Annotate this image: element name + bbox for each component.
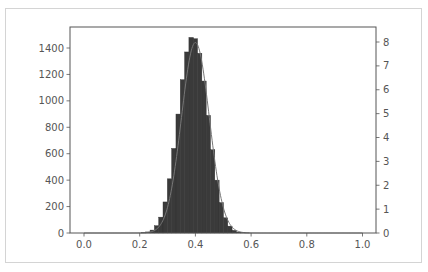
histogram-bar [193, 39, 197, 233]
x-tick-label: 0.6 [243, 239, 259, 250]
histogram-bar [215, 180, 219, 233]
y-right-tick-label: 1 [383, 204, 389, 215]
histogram-bar [163, 202, 167, 233]
x-tick-label: 1.0 [355, 239, 371, 250]
y-left-tick-label: 400 [45, 175, 64, 186]
y-left-tick-label: 0 [58, 228, 64, 239]
y-right-tick-label: 5 [383, 108, 389, 119]
histogram-bar [180, 80, 184, 233]
y-right-tick-label: 7 [383, 60, 389, 71]
y-left-tick-label: 1000 [39, 95, 64, 106]
y-right-tick-label: 4 [383, 132, 389, 143]
y-left-tick-label: 200 [45, 201, 64, 212]
histogram-bar [228, 226, 232, 233]
x-axis: 0.00.20.40.60.81.0 [76, 233, 370, 250]
x-tick-label: 0.8 [299, 239, 315, 250]
x-tick-label: 0.2 [132, 239, 148, 250]
x-tick-label: 0.4 [187, 239, 203, 250]
y-axis-right: 012345678 [376, 37, 389, 239]
histogram-bar [189, 37, 193, 233]
y-axis-left: 0200400600800100012001400 [39, 43, 70, 239]
y-left-tick-label: 600 [45, 148, 64, 159]
y-right-tick-label: 6 [383, 84, 389, 95]
x-tick-label: 0.0 [76, 239, 92, 250]
y-left-tick-label: 1200 [39, 69, 64, 80]
histogram-bar [206, 115, 210, 233]
histogram-bar [210, 150, 214, 233]
y-right-tick-label: 0 [383, 228, 389, 239]
histogram-bar [172, 148, 176, 233]
y-right-tick-label: 8 [383, 37, 389, 48]
histogram-chart: 0.00.20.40.60.81.0 020040060080010001200… [0, 0, 428, 272]
y-right-tick-label: 2 [383, 180, 389, 191]
histogram-bar [198, 53, 202, 233]
y-left-tick-label: 800 [45, 122, 64, 133]
plot-area-border [70, 27, 376, 233]
y-right-tick-label: 3 [383, 156, 389, 167]
histogram-bar [202, 81, 206, 233]
histogram-bars [141, 37, 249, 233]
y-left-tick-label: 1400 [39, 43, 64, 54]
histogram-bar [223, 218, 227, 233]
